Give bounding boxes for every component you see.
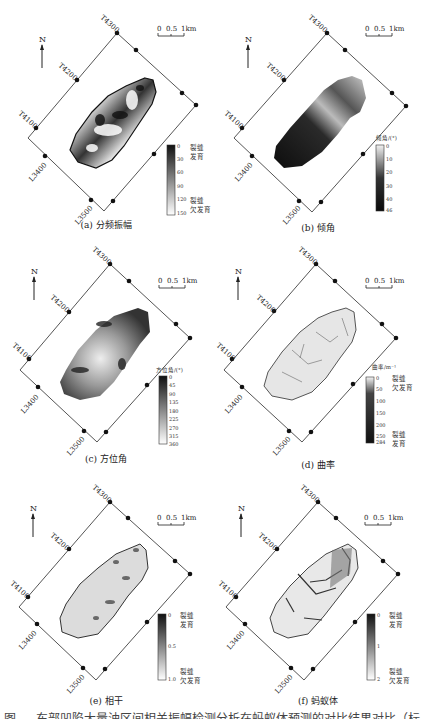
svg-text:135: 135 (169, 399, 179, 405)
svg-text:0: 0 (365, 277, 369, 285)
svg-text:T4200: T4200 (49, 294, 71, 315)
svg-text:0.5: 0.5 (373, 514, 384, 522)
svg-text:欠发育: 欠发育 (389, 676, 410, 685)
svg-text:1km: 1km (181, 514, 197, 522)
panel-e: N 0 0.5 1km T4300 T4200 T4100 L3400 L350… (0, 470, 212, 710)
map-frame-e: N 0 0.5 1km T4300 T4200 T4100 L3400 L350… (0, 470, 212, 710)
svg-text:T4300: T4300 (307, 14, 329, 35)
panel-f: N 0 0.5 1km T4300 T4200 T4100 L3400 L350… (212, 470, 424, 710)
svg-text:倾角/(°): 倾角/(°) (376, 134, 397, 142)
svg-text:90: 90 (169, 391, 175, 397)
svg-text:T4300: T4300 (91, 246, 113, 267)
svg-text:30: 30 (386, 183, 392, 189)
svg-text:46: 46 (386, 207, 392, 213)
svg-text:裂缝: 裂缝 (392, 430, 406, 439)
figure-caption: 图 … 东部凹陷大量油区间相关振幅检测分析在蚂蚁体预测的对比结果对比（标题被截断… (0, 709, 424, 719)
panel-c: N 0 0.5 1km T4300 T4200 T4100 L3400 L350… (0, 232, 212, 470)
svg-text:1km: 1km (389, 277, 405, 285)
caption-f: (f) 蚂蚁体 (212, 694, 424, 707)
svg-text:T4100: T4100 (9, 580, 31, 601)
svg-text:270: 270 (169, 425, 179, 431)
svg-text:N: N (245, 35, 252, 44)
svg-text:1km: 1km (182, 277, 198, 285)
svg-text:1: 1 (377, 643, 380, 649)
svg-text:裂缝: 裂缝 (180, 667, 194, 676)
svg-text:20: 20 (386, 169, 392, 175)
svg-text:40: 40 (386, 196, 392, 202)
svg-text:N: N (238, 504, 245, 513)
attribute-map-d (264, 308, 356, 400)
svg-text:0: 0 (158, 277, 162, 285)
svg-text:360: 360 (169, 441, 179, 447)
svg-text:0: 0 (364, 514, 368, 522)
attribute-map-b (274, 76, 366, 168)
svg-text:L3500: L3500 (274, 673, 295, 695)
map-frame-c: N 0 0.5 1km T4300 T4200 T4100 L3400 L350… (0, 232, 212, 470)
svg-text:0.5: 0.5 (167, 277, 178, 285)
svg-text:欠发育: 欠发育 (392, 383, 413, 392)
panel-a: N 0 0.5 1km T4300 T4200 T4100 L3400 L350… (0, 0, 212, 230)
svg-text:120: 120 (177, 196, 187, 202)
svg-text:0: 0 (157, 514, 161, 522)
caption-a: (a) 分频振幅 (0, 218, 212, 231)
svg-text:100: 100 (376, 398, 386, 404)
svg-text:T4200: T4200 (265, 62, 287, 83)
svg-text:L3400: L3400 (18, 629, 39, 651)
svg-text:发育: 发育 (180, 620, 194, 629)
caption-e: (e) 相干 (0, 694, 212, 707)
svg-text:L3400: L3400 (20, 393, 41, 415)
svg-text:T4200: T4200 (257, 532, 279, 553)
svg-text:T4100: T4100 (17, 110, 39, 131)
svg-text:L3400: L3400 (226, 629, 247, 651)
svg-text:1km: 1km (389, 25, 405, 33)
colorbar-a (167, 145, 175, 215)
svg-text:裂缝: 裂缝 (392, 374, 406, 383)
svg-text:60: 60 (177, 169, 183, 175)
svg-text:1.0: 1.0 (168, 676, 176, 682)
svg-text:0.5: 0.5 (166, 25, 177, 33)
svg-text:0: 0 (386, 143, 389, 149)
svg-text:L3400: L3400 (28, 161, 49, 183)
map-frame-f: N 0 0.5 1km T4300 T4200 T4100 L3400 L350… (212, 470, 424, 710)
svg-text:315: 315 (169, 433, 179, 439)
svg-text:T4100: T4100 (223, 110, 245, 131)
svg-text:0.5: 0.5 (168, 643, 176, 649)
svg-text:0: 0 (365, 25, 369, 33)
svg-text:发育: 发育 (392, 439, 406, 448)
svg-text:欠发育: 欠发育 (190, 205, 211, 214)
attribute-map-e (60, 544, 148, 638)
attribute-map-a (70, 78, 156, 168)
svg-text:裂缝: 裂缝 (180, 611, 194, 620)
svg-text:150: 150 (376, 410, 386, 416)
svg-text:200: 200 (376, 422, 386, 428)
svg-text:0.5: 0.5 (374, 25, 385, 33)
svg-text:0: 0 (169, 374, 172, 380)
svg-text:2: 2 (377, 676, 380, 682)
svg-text:T4300: T4300 (99, 14, 121, 35)
svg-text:T4300: T4300 (297, 246, 319, 267)
svg-text:L3500: L3500 (272, 435, 293, 457)
svg-text:T4300: T4300 (91, 484, 113, 505)
svg-text:180: 180 (169, 408, 179, 414)
svg-text:150: 150 (177, 210, 187, 216)
svg-text:裂缝: 裂缝 (190, 196, 204, 205)
svg-text:N: N (31, 267, 38, 276)
svg-text:裂缝: 裂缝 (389, 611, 403, 620)
svg-text:L3400: L3400 (224, 393, 245, 415)
svg-text:0: 0 (168, 612, 171, 618)
svg-text:50: 50 (376, 386, 382, 392)
svg-text:0: 0 (157, 25, 161, 33)
svg-text:N: N (30, 504, 37, 513)
panel-d: N 0 0.5 1km T4300 T4200 T4100 L3400 L350… (212, 232, 424, 470)
svg-text:0: 0 (377, 612, 380, 618)
panel-b: N 0 0.5 1km T4300 T4200 T4100 L3400 L350… (212, 0, 424, 230)
map-frame-b: N 0 0.5 1km T4300 T4200 T4100 L3400 L350… (212, 0, 424, 230)
map-frame-d: N 0 0.5 1km T4300 T4200 T4100 L3400 L350… (212, 232, 424, 470)
svg-text:裂缝: 裂缝 (190, 143, 204, 152)
svg-text:284: 284 (376, 439, 386, 445)
svg-text:T4100: T4100 (11, 342, 33, 363)
caption-c: (c) 方位角 (0, 452, 212, 465)
svg-text:曲率/m⁻¹: 曲率/m⁻¹ (372, 363, 396, 371)
svg-text:0: 0 (376, 375, 379, 381)
svg-text:225: 225 (169, 416, 179, 422)
